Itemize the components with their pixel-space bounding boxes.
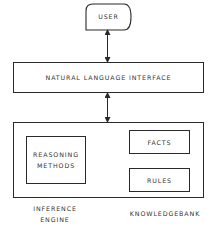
inference-caption-2: ENGINE (20, 214, 90, 225)
reasoning-label-1: REASONING (26, 149, 86, 160)
reasoning-label-2: METHODS (26, 160, 86, 171)
facts-label: FACTS (129, 137, 190, 148)
rules-label: RULES (129, 175, 190, 186)
knowledgebank-caption: KNOWLEDGEBANK (120, 208, 210, 219)
inference-caption-1: INFERENCE (20, 203, 90, 214)
user-label: USER (86, 11, 131, 22)
diagram-canvas (0, 0, 215, 231)
nli-label: NATURAL LANGUAGE INTERFACE (13, 72, 204, 83)
